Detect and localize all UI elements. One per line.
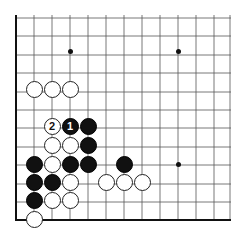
white-stone [44,81,61,98]
star-point-icon [176,49,181,54]
white-stone [134,174,151,191]
white-stone [26,81,43,98]
white-stone [44,156,61,173]
white-stone [62,137,79,154]
black-stone [26,174,43,191]
black-stone [44,174,61,191]
star-point-icon [68,49,73,54]
white-stone [62,81,79,98]
white-stone [44,137,61,154]
star-point-icon [176,162,181,167]
white-stone [44,192,61,209]
white-stone [26,211,43,228]
move-number: 1 [67,121,73,132]
white-stone-move-2: 2 [44,118,61,135]
black-stone [80,118,97,135]
white-stone [62,174,79,191]
black-stone [26,156,43,173]
white-stone [98,174,115,191]
white-stone [62,192,79,209]
black-stone [80,156,97,173]
black-stone [62,156,79,173]
white-stone [116,174,133,191]
go-board: 21 [0,0,241,242]
black-stone-move-1: 1 [62,118,79,135]
black-stone [80,137,97,154]
black-stone [26,192,43,209]
black-stone [116,156,133,173]
move-number: 2 [49,121,55,132]
